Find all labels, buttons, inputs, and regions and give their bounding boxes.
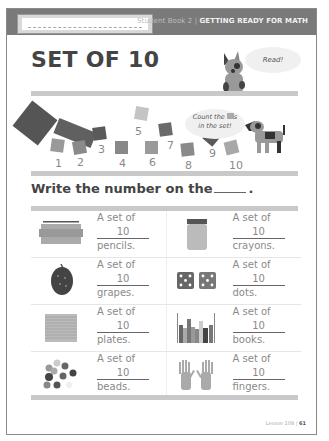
- blank-line: [214, 192, 246, 193]
- block-icon: [158, 122, 173, 137]
- block-icon: [145, 141, 158, 154]
- hands-icon: [175, 358, 219, 392]
- page-number: 61: [299, 420, 306, 426]
- dog-mascot-icon: [220, 49, 250, 97]
- block-icon: [115, 141, 128, 154]
- answer-field[interactable]: 10: [233, 225, 285, 240]
- dog-standing-icon: [243, 117, 287, 157]
- block-icon: [224, 140, 240, 156]
- grid-row: A set of10plates. A set of10books.: [31, 305, 301, 352]
- set-item-grapes: A set of10grapes.: [31, 258, 166, 304]
- grid-row: A set of10pencils. A set of10crayons.: [31, 211, 301, 258]
- count-number: 6: [149, 156, 156, 169]
- answer-field[interactable]: 10: [233, 272, 285, 287]
- block-icon: [134, 106, 149, 121]
- block-icon: [227, 113, 234, 119]
- count-number: 2: [77, 156, 84, 169]
- set-item-crayons: A set of10crayons.: [166, 211, 302, 257]
- answer-field[interactable]: 10: [233, 319, 285, 334]
- grapes-icon: [39, 264, 83, 298]
- beads-icon: [39, 358, 83, 392]
- answer-field[interactable]: 10: [97, 319, 149, 334]
- ten-rod-icon: [13, 101, 58, 146]
- name-field[interactable]: [17, 14, 153, 34]
- count-number: 4: [119, 157, 126, 170]
- count-number: 3: [98, 143, 105, 156]
- worksheet-page: Student Book 2 | GETTING READY FOR MATH …: [6, 8, 317, 435]
- plates-icon: [39, 311, 83, 345]
- set-item-plates: A set of10plates.: [31, 305, 166, 351]
- divider-stripe: [31, 395, 298, 400]
- page-title: SET OF 10: [31, 47, 159, 72]
- speech-bubble-count: Count the s in the set!: [185, 109, 245, 139]
- instruction: Write the number on the.: [31, 181, 253, 196]
- set-item-dots: A set of10dots.: [166, 258, 302, 304]
- sets-grid: A set of10pencils. A set of10crayons. A …: [31, 211, 301, 398]
- block-icon: [92, 126, 107, 141]
- count-number: 1: [55, 157, 62, 170]
- series-title: GETTING READY FOR MATH: [199, 17, 308, 25]
- grid-row: A set of10grapes. A set of10dots.: [31, 258, 301, 305]
- grid-row: A set of10beads. A set of10fingers.: [31, 352, 301, 398]
- pencils-icon: [39, 217, 83, 251]
- count-number: 9: [209, 147, 216, 160]
- block-icon: [180, 142, 194, 156]
- block-icon: [50, 138, 65, 153]
- books-icon: [175, 311, 219, 345]
- set-item-pencils: A set of10pencils.: [31, 211, 166, 257]
- answer-field[interactable]: 10: [97, 272, 149, 287]
- answer-field[interactable]: 10: [233, 366, 285, 381]
- set-item-beads: A set of10beads.: [31, 352, 166, 398]
- answer-field[interactable]: 10: [97, 225, 149, 240]
- count-number: 7: [167, 139, 174, 152]
- set-item-fingers: A set of10fingers.: [166, 352, 302, 398]
- header-bar: Student Book 2 | GETTING READY FOR MATH: [7, 9, 316, 35]
- speech-bubble-read: Read!: [245, 47, 301, 73]
- book-label: Student Book 2 | GETTING READY FOR MATH: [137, 17, 308, 25]
- divider-stripe: [31, 171, 298, 176]
- answer-field[interactable]: 10: [97, 366, 149, 381]
- crayons-icon: [175, 217, 219, 251]
- set-item-books: A set of10books.: [166, 305, 302, 351]
- count-number: 5: [135, 125, 142, 138]
- page-footer: Lesson 108 | 61: [266, 420, 306, 426]
- dice-icon: [175, 264, 219, 298]
- block-icon: [72, 140, 87, 155]
